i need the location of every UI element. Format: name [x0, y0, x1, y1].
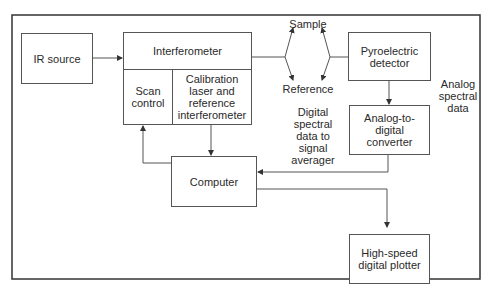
reference-label: Reference: [280, 83, 336, 95]
computer-label: Computer: [190, 176, 238, 188]
adc-label: Analog-to-digital converter: [352, 112, 427, 148]
plotter-box: High-speed digital plotter: [349, 234, 430, 284]
scan-control-label: Scan control: [128, 85, 168, 109]
adc-box: Analog-to-digital converter: [349, 105, 430, 155]
sample-label: Sample: [283, 18, 333, 30]
calibration-label: Calibration laser and reference interfer…: [173, 73, 251, 121]
calibration-box: Calibration laser and reference interfer…: [172, 69, 252, 125]
ir-source-label: IR source: [33, 53, 80, 65]
interferometer-box: Interferometer: [123, 32, 252, 70]
ftir-block-diagram: IR source Interferometer Scan control Ca…: [0, 0, 494, 301]
pyroelectric-detector-box: Pyroelectric detector: [348, 32, 431, 81]
scan-control-box: Scan control: [123, 69, 173, 125]
computer-box: Computer: [171, 156, 257, 207]
digital-spectral-data-label: Digital spectral data to signal averager: [290, 106, 336, 166]
plotter-label: High-speed digital plotter: [356, 247, 423, 271]
analog-spectral-data-label: Analog spectral data: [434, 78, 482, 114]
interferometer-label: Interferometer: [153, 45, 222, 57]
pyroelectric-detector-label: Pyroelectric detector: [359, 45, 420, 69]
ir-source-box: IR source: [21, 33, 93, 84]
